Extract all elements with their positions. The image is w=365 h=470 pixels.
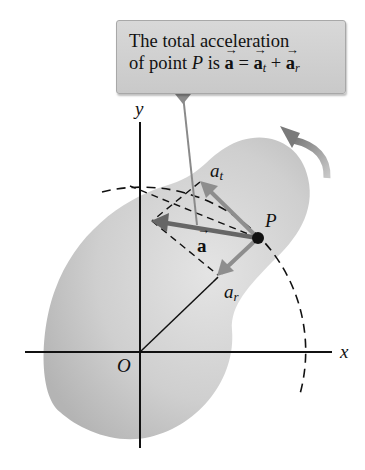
callout-line-2: of point P is a = at + ar xyxy=(129,52,345,79)
callout-pointer xyxy=(175,94,191,104)
callout-vector-ar: a xyxy=(286,52,295,74)
origin-label: O xyxy=(117,355,131,377)
callout-point-p: P xyxy=(192,53,203,73)
point-p-dot xyxy=(252,232,264,244)
rigid-body-shape xyxy=(44,138,310,440)
x-axis-label: x xyxy=(340,341,348,363)
callout-sub-r: r xyxy=(295,61,300,75)
radial-acceleration-label: ar xyxy=(224,281,239,305)
tangential-acceleration-label: at xyxy=(210,160,223,184)
point-p-label: P xyxy=(265,210,277,232)
callout-vector-at: a xyxy=(254,52,263,74)
callout-text-of-point: of point xyxy=(129,53,192,73)
y-axis-label: y xyxy=(135,98,143,120)
callout-vector-a: a xyxy=(225,52,234,74)
callout-box: The total acceleration of point P is a =… xyxy=(116,20,346,94)
callout-plus: + xyxy=(266,53,286,73)
total-acceleration-label: a xyxy=(197,235,207,257)
callout-text-is: is xyxy=(203,53,225,73)
